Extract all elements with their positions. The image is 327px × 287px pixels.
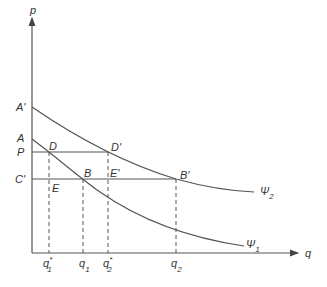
label-q1: q1 <box>79 257 90 274</box>
label-p: P <box>17 146 25 158</box>
y-axis-label: p <box>29 4 36 16</box>
point-d: D <box>49 140 57 152</box>
label-a-prime: A' <box>15 101 26 113</box>
point-b: B <box>84 167 91 179</box>
label-psi1: Ψ1 <box>246 238 260 254</box>
point-e: E <box>52 182 60 194</box>
point-b-prime: B' <box>180 169 190 181</box>
label-q2: q2 <box>171 257 182 274</box>
curve-psi1 <box>32 139 244 246</box>
label-c-prime: C' <box>15 173 26 185</box>
point-d-prime: D' <box>111 141 122 153</box>
label-psi2: Ψ2 <box>260 185 274 201</box>
demand-diagram: p q A' A P C' D D' E B E' B' Ψ2 Ψ1 q*1 q… <box>0 0 327 287</box>
point-e-prime: E' <box>110 167 120 179</box>
label-q1-star: q*1 <box>43 255 53 274</box>
label-q2-star: q*2 <box>103 255 113 274</box>
x-axis-label: q <box>305 247 312 259</box>
label-a: A <box>16 132 24 144</box>
